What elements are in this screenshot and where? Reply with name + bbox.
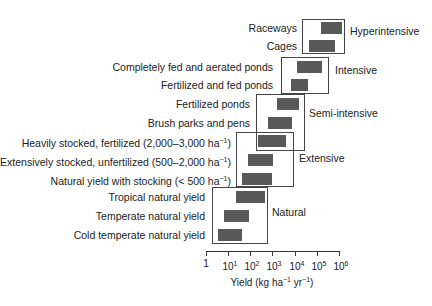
superscript: −1 [220, 156, 228, 163]
x-tick-label: 103 [266, 258, 281, 273]
tick-base: 10 [289, 261, 300, 272]
range-bar [218, 229, 242, 241]
range-bar [321, 22, 342, 34]
xlabel-text: yr [291, 277, 302, 288]
tick-exponent: 4 [301, 260, 305, 267]
row-label: Cold temperate natural yield [74, 229, 205, 241]
range-bar [309, 40, 335, 52]
group-label: Hyperintensive [350, 25, 419, 37]
row-label: Cages [267, 40, 297, 52]
xlabel-text: ) [310, 277, 313, 288]
x-axis-label: Yield (kg ha−1 yr−1) [231, 274, 314, 289]
range-bar [248, 154, 273, 166]
row-label: Temperate natural yield [96, 210, 205, 222]
tick-base: 1 [203, 258, 209, 269]
row-label: Natural yield with stocking (< 500 ha−1) [51, 173, 231, 187]
range-bar [268, 117, 292, 129]
range-bar [236, 191, 265, 203]
tick-base: 10 [311, 261, 322, 272]
row-label: Heavily stocked, fertilized (2,000–3,000… [22, 135, 231, 149]
row-label: Fertilized ponds [176, 98, 250, 110]
row-label-tail: ) [228, 175, 232, 187]
tick-exponent: 3 [278, 260, 282, 267]
row-label-text: Heavily stocked, fertilized (2,000–3,000… [22, 137, 220, 149]
superscript: −1 [220, 137, 228, 144]
xlabel-superscript: −1 [302, 276, 310, 283]
tick-exponent: 1 [234, 260, 238, 267]
row-label: Brush parks and pens [148, 117, 250, 129]
tick-base: 10 [244, 261, 255, 272]
range-bar [224, 210, 249, 222]
range-bar [291, 79, 308, 91]
tick-base: 10 [333, 261, 344, 272]
x-tick-label: 102 [244, 258, 259, 273]
x-tick-label: 1 [203, 258, 209, 270]
range-bar [297, 61, 322, 73]
x-axis-tick [250, 251, 251, 256]
x-axis-tick [317, 251, 318, 256]
row-label: Extensively stocked, unfertilized (500–2… [0, 154, 231, 168]
range-bar [242, 173, 272, 185]
tick-base: 10 [266, 261, 277, 272]
aquaculture-yield-chart: HyperintensiveIntensiveSemi-intensiveExt… [0, 0, 432, 306]
row-label: Fertilized and fed ponds [161, 79, 273, 91]
row-label-text: Cold temperate natural yield [74, 229, 205, 241]
row-label: Tropical natural yield [109, 191, 206, 203]
tick-exponent: 6 [345, 260, 349, 267]
row-label-text: Temperate natural yield [96, 210, 205, 222]
row-label-text: Brush parks and pens [148, 117, 250, 129]
row-label-text: Extensively stocked, unfertilized (500–2… [0, 156, 219, 168]
group-label: Natural [272, 206, 306, 218]
row-label-text: Fertilized and fed ponds [161, 79, 273, 91]
x-axis-tick [339, 251, 340, 256]
group-label: Intensive [335, 64, 377, 76]
x-axis-line [206, 251, 340, 252]
row-label: Raceways [249, 22, 297, 34]
row-label-text: Natural yield with stocking (< 500 ha [51, 175, 220, 187]
x-axis-tick [228, 251, 229, 256]
x-tick-label: 104 [289, 258, 304, 273]
row-label-text: Tropical natural yield [109, 191, 206, 203]
range-bar [258, 135, 286, 147]
x-tick-label: 106 [333, 258, 348, 273]
range-bar [277, 98, 299, 110]
row-label-tail: ) [228, 137, 232, 149]
group-label: Extensive [299, 152, 345, 164]
tick-exponent: 5 [323, 260, 327, 267]
tick-base: 10 [222, 261, 233, 272]
x-tick-label: 105 [311, 258, 326, 273]
row-label-tail: ) [228, 156, 232, 168]
x-tick-label: 101 [222, 258, 237, 273]
x-axis-tick [206, 251, 207, 256]
row-label-text: Raceways [249, 22, 297, 34]
row-label: Completely fed and aerated ponds [112, 61, 273, 73]
x-axis-tick [295, 251, 296, 256]
xlabel-text: Yield (kg ha [231, 277, 283, 288]
tick-exponent: 2 [256, 260, 260, 267]
row-label-text: Cages [267, 40, 297, 52]
x-axis-tick [272, 251, 273, 256]
superscript: −1 [220, 175, 228, 182]
group-label: Semi-intensive [309, 107, 378, 119]
row-label-text: Completely fed and aerated ponds [112, 61, 273, 73]
row-label-text: Fertilized ponds [176, 98, 250, 110]
